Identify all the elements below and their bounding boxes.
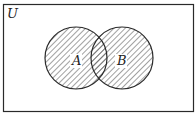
venn-diagram: U A B bbox=[0, 0, 196, 114]
set-a-label: A bbox=[71, 53, 81, 68]
universe-label: U bbox=[7, 6, 19, 21]
set-b-label: B bbox=[116, 53, 127, 68]
